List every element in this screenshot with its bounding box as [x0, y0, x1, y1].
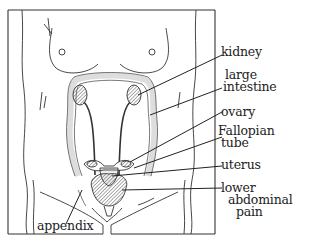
label-ovary: ovary: [221, 106, 255, 118]
reproductive-organs: [84, 160, 134, 216]
label-fallopian-line2: tube: [221, 137, 249, 149]
label-kidney: kidney: [221, 46, 262, 58]
label-appendix: appendix: [37, 220, 93, 232]
label-uterus: uterus: [221, 159, 261, 171]
label-large-intestine-line2: intestine: [223, 81, 277, 93]
label-pain-line3: pain: [236, 206, 263, 218]
